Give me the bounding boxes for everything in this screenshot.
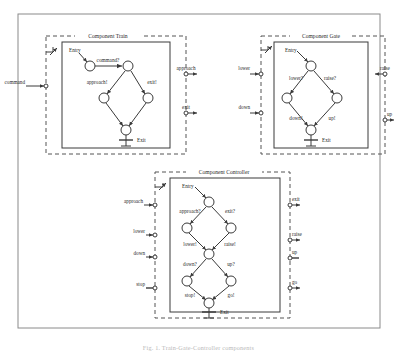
gate-port-lower-label: lower	[238, 65, 250, 71]
gate-state-top	[306, 61, 316, 71]
controller-port-down-label: down	[133, 250, 145, 256]
gate-port-raise-socket[interactable]	[383, 72, 387, 76]
controller-exit-label: Exit	[220, 309, 229, 315]
controller-title: Component Controller	[199, 169, 250, 175]
controller-port-raise-label: raise	[292, 231, 302, 237]
controller-port-stop-socket[interactable]	[153, 286, 157, 290]
gate-title: Component Gate	[302, 33, 341, 39]
controller-port-up-label: up	[292, 249, 298, 255]
controller-port-stop-label: stop	[136, 281, 145, 287]
train-exit-label: Exit	[137, 137, 146, 143]
controller-label-up: up?	[227, 261, 235, 267]
gate-label-down: down!	[289, 115, 303, 121]
controller-state-3	[226, 223, 236, 233]
train-label-command: command?	[97, 57, 120, 63]
controller-state-4	[204, 249, 214, 259]
controller-label-approach: approach?	[179, 208, 201, 214]
controller-label-down: down?	[183, 261, 198, 267]
gate-port-down-label: down	[238, 104, 250, 110]
controller-state-1	[204, 197, 214, 207]
train-state-1	[85, 61, 95, 71]
controller-label-exit: exit?	[225, 208, 236, 214]
train-state-3	[99, 93, 109, 103]
controller-port-go-socket[interactable]	[288, 286, 292, 290]
train-port-command-socket[interactable]	[44, 84, 48, 88]
train-state-2	[123, 61, 133, 71]
train-port-approach-socket[interactable]	[184, 72, 188, 76]
controller-entry-label: Entry	[182, 183, 194, 189]
gate-port-up-label: up	[387, 111, 393, 117]
gate-port-raise-label: raise	[380, 65, 390, 71]
controller-port-exit-socket[interactable]	[288, 203, 292, 207]
train-title: Component Train	[88, 33, 128, 39]
train-port-approach-label: approach	[176, 65, 195, 71]
gate-port-down-socket[interactable]	[259, 111, 263, 115]
train-port-exit-label: exit	[182, 104, 190, 110]
gate-state-right	[332, 93, 342, 103]
gate-entry-label: Entry	[285, 47, 297, 53]
train-state-5	[121, 125, 131, 135]
gate-state-bottom	[306, 125, 316, 135]
diagram-canvas: Component Train Entry command? approach!…	[0, 0, 397, 353]
controller-port-down-socket[interactable]	[153, 255, 157, 259]
train-label-approach: approach!	[87, 79, 108, 85]
gate-port-up-socket[interactable]	[383, 118, 387, 122]
controller-port-lower-socket[interactable]	[153, 233, 157, 237]
controller-label-lower: lower!	[183, 241, 197, 247]
controller-label-raise: raise!	[224, 241, 236, 247]
gate-state-left	[282, 93, 292, 103]
controller-port-approach-label: approach	[124, 198, 143, 204]
train-port-command-label: command	[5, 79, 26, 85]
controller-port-approach-socket[interactable]	[153, 203, 157, 207]
gate-exit-label: Exit	[322, 137, 331, 143]
train-state-4	[143, 93, 153, 103]
controller-state-6	[226, 276, 236, 286]
gate-label-lower: lower?	[289, 75, 304, 81]
gate-label-raise: raise?	[324, 75, 337, 81]
component-diagram-figure: Component Train Entry command? approach!…	[0, 0, 397, 353]
gate-label-up: up!	[329, 115, 336, 121]
train-entry-label: Entry	[69, 47, 81, 53]
controller-state-2	[182, 223, 192, 233]
train-label-exit: exit!	[147, 79, 157, 85]
controller-label-go: go!	[228, 292, 235, 298]
gate-port-lower-socket[interactable]	[259, 72, 263, 76]
controller-port-exit-label: exit	[292, 196, 300, 202]
controller-port-go-label: go	[292, 279, 298, 285]
controller-port-lower-label: lower	[133, 228, 145, 234]
train-port-exit-socket[interactable]	[184, 111, 188, 115]
controller-port-raise-socket[interactable]	[288, 238, 292, 242]
controller-label-stop: stop!	[185, 292, 196, 298]
controller-state-5	[182, 276, 192, 286]
controller-port-up-socket[interactable]	[288, 256, 292, 260]
figure-caption: Fig. 1. Train-Gate-Controller components	[0, 344, 397, 351]
